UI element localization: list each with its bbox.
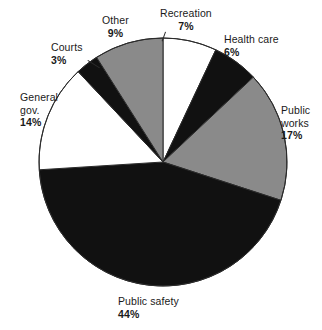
slice-label-public-works-value: 17% [281,129,310,142]
slice-label-health-care: Health care 6% [224,33,279,58]
slice-label-public-works-name-2: works [281,117,310,130]
slice-label-health-care-value: 6% [224,46,279,59]
slice-label-health-care-name: Health care [224,33,279,46]
slice-label-general-gov: General gov. 14% [20,91,58,129]
slice-label-public-works: Public works 17% [281,104,310,142]
slice-label-recreation-value: 7% [160,20,212,33]
slice-label-recreation: Recreation 7% [160,7,212,32]
slice-label-public-works-name-1: Public [281,104,310,117]
slice-label-general-gov-name-1: General [20,91,58,104]
slice-label-public-safety-value: 44% [118,308,179,321]
slice-label-general-gov-value: 14% [20,116,58,129]
pie-chart: Other 9% Recreation 7% Health care 6% Pu… [0,0,322,330]
slice-label-courts-value: 3% [51,54,83,67]
slice-label-general-gov-name-2: gov. [20,104,58,117]
slice-label-courts-name: Courts [51,41,83,54]
slice-label-recreation-name: Recreation [160,7,212,20]
slice-label-public-safety-name: Public safety [118,295,179,308]
slice-label-courts: Courts 3% [51,41,83,66]
slice-label-other-name: Other [102,14,129,27]
slice-label-other-value: 9% [102,27,129,40]
slice-label-other: Other 9% [102,14,129,39]
slice-label-public-safety: Public safety 44% [118,295,179,320]
